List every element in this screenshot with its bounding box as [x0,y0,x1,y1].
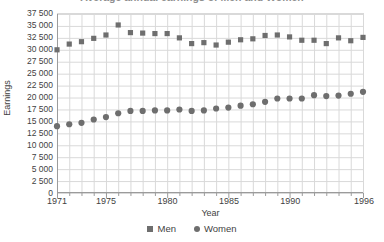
data-point-men [324,41,329,46]
y-axis-tick-label: 32 500 [27,33,53,42]
data-point-men [177,35,182,40]
data-point-men [336,35,341,40]
circle-marker-icon [194,226,200,232]
data-point-men [67,41,72,46]
data-point-men [140,31,145,36]
data-point-men [299,38,304,43]
x-axis-tick-label: 1971 [47,196,67,207]
data-point-women [176,106,182,112]
data-point-women [103,114,109,120]
data-point-men [165,31,170,36]
data-point-men [214,42,219,47]
data-point-women [274,95,280,101]
chart-legend: MenWomen [0,223,384,234]
data-point-men [275,32,280,37]
data-point-women [225,104,231,110]
x-axis-tick-label: 1996 [354,196,374,207]
data-point-men [238,37,243,42]
y-axis-tick-label: 37 500 [27,9,53,18]
data-point-women [323,93,329,99]
x-axis-tick-label: 1990 [280,196,300,207]
y-axis-tick-label: 5 000 [32,165,53,174]
gridlines [57,14,363,193]
data-point-women [250,101,256,107]
data-point-women [262,99,268,105]
data-point-men [311,38,316,43]
x-axis-title: Year [57,208,364,218]
data-point-men [103,32,108,37]
x-axis-tick-label: 1980 [158,196,178,207]
legend-item-women[interactable]: Women [194,223,237,234]
data-point-women [335,93,341,99]
data-point-women [238,103,244,109]
square-marker-icon [147,226,153,232]
data-point-men [262,33,267,38]
data-point-men [116,22,121,27]
legend-label: Women [204,223,237,234]
data-point-men [348,38,353,43]
data-point-men [152,31,157,36]
data-point-women [201,107,207,113]
data-point-men [128,30,133,35]
data-point-women [115,110,121,116]
data-point-men [189,41,194,46]
chart-title: Average annual earnings of Men and Women [0,0,384,3]
data-point-women [286,95,292,101]
data-point-women [66,121,72,127]
data-point-women [348,91,354,97]
y-axis-tick-label: 17 500 [27,105,53,114]
data-point-women [189,108,195,114]
legend-label: Men [157,223,175,234]
y-axis-tick-label: 35 000 [27,21,53,30]
data-point-men [91,36,96,41]
legend-item-men[interactable]: Men [147,223,175,234]
y-axis-title: Earnings [0,0,14,196]
data-point-women [152,107,158,113]
data-point-women [299,95,305,101]
plot-svg [57,14,363,193]
data-point-men [54,47,59,52]
data-point-men [287,34,292,39]
y-axis-title-label: Earnings [2,80,12,116]
data-point-women [54,123,60,129]
series-women [54,89,366,130]
data-point-men [79,39,84,44]
y-axis-tick-label: 20 000 [27,93,53,102]
data-point-women [140,108,146,114]
chart-container: Average annual earnings of Men and Women… [0,0,384,242]
data-point-women [360,89,366,95]
y-axis-tick-label: 22 500 [27,81,53,90]
data-point-women [91,116,97,122]
y-axis-tick-label: 30 000 [27,45,53,54]
y-axis-tick-label: 7 500 [32,153,53,162]
data-point-women [311,92,317,98]
data-point-men [201,40,206,45]
data-point-men [360,35,365,40]
data-point-women [127,108,133,114]
y-axis-tick-label: 27 500 [27,57,53,66]
data-point-women [213,105,219,111]
y-axis-tick-label: 15 000 [27,117,53,126]
plot-area [57,13,364,193]
data-point-women [78,120,84,126]
y-axis-tick-label: 2 500 [32,177,53,186]
data-point-women [164,107,170,113]
x-axis-tick-label: 1985 [219,196,239,207]
data-point-men [226,40,231,45]
y-axis-tick-label: 25 000 [27,69,53,78]
data-point-men [250,36,255,41]
x-axis-tick-label: 1975 [96,196,116,207]
y-axis-tick-label: 10 000 [27,141,53,150]
y-axis-tick-label: 12 500 [27,129,53,138]
